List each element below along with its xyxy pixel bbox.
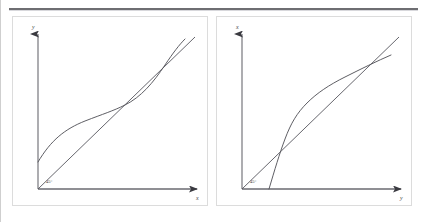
right-x-axis-label: y <box>400 195 403 201</box>
right-transfer-curve <box>269 55 391 189</box>
right-y-axis-label: x <box>236 24 239 30</box>
panel-container: y x 45° <box>0 16 426 222</box>
diagram-panel-right: x y 45° <box>216 16 412 206</box>
left-origin-angle-label: 45° <box>46 180 52 185</box>
figure-page: y x 45° <box>0 0 426 222</box>
diagram-panel-left: y x 45° <box>12 16 208 206</box>
left-panel-plot <box>13 17 209 207</box>
right-origin-angle-label: 45° <box>250 180 256 185</box>
right-panel-plot <box>217 17 413 207</box>
left-transfer-curve <box>38 39 185 162</box>
left-x-axis-label: x <box>196 195 199 201</box>
left-reference-line <box>38 37 195 189</box>
right-reference-line <box>242 37 399 189</box>
left-y-axis-label: y <box>32 24 35 30</box>
top-horizontal-rule-shadow <box>9 10 418 11</box>
